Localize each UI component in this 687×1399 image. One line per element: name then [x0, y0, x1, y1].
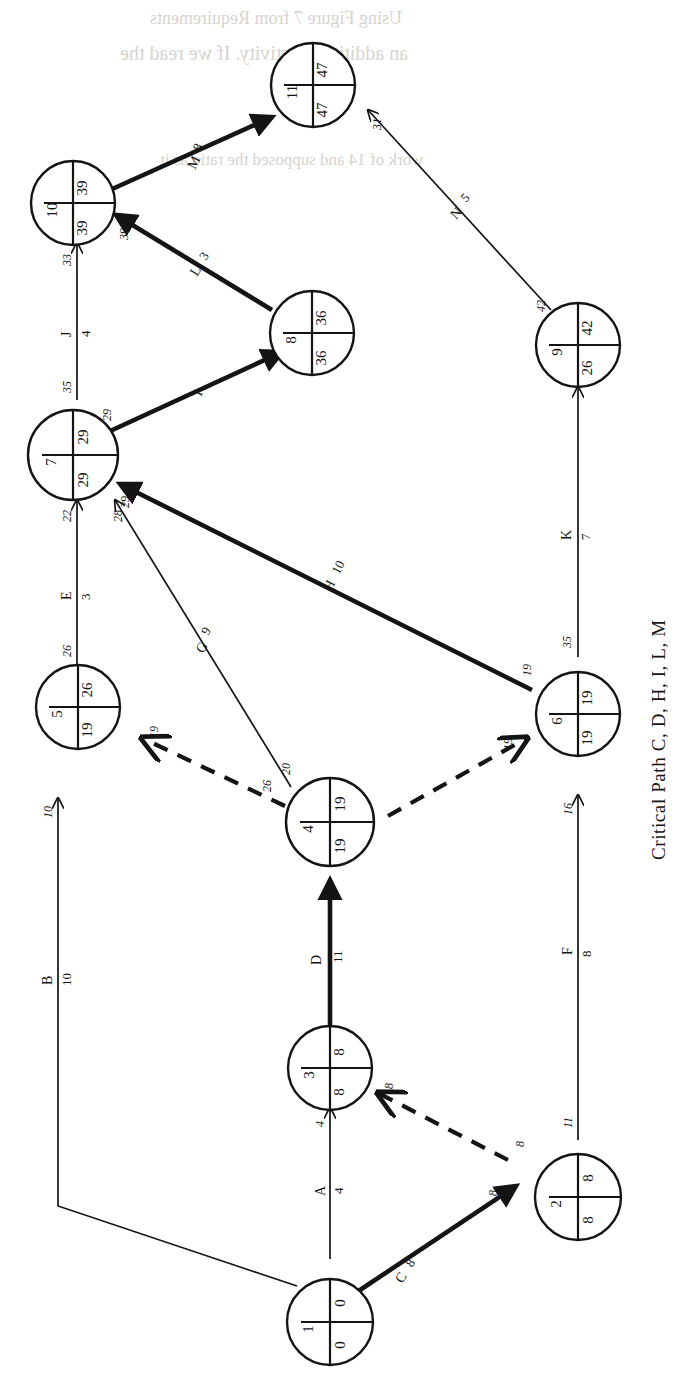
node-1-number: 1 — [300, 1325, 316, 1333]
node-10[interactable]: 10 39 39 — [31, 161, 115, 245]
time-tag-dummy23-head: 8 — [382, 1083, 396, 1089]
time-tag-h-head: 29 — [118, 496, 132, 508]
node-5[interactable]: 5 19 26 — [36, 665, 120, 749]
node-3-number: 3 — [301, 1071, 317, 1079]
node-2-late: 8 — [580, 1216, 596, 1224]
activity-label-F: F — [560, 947, 575, 955]
time-tag-n-tail: 42 — [534, 300, 548, 312]
time-tag-l-head: 39 — [117, 228, 131, 241]
node-11-number: 11 — [284, 85, 300, 99]
node-3[interactable]: 3 8 8 — [288, 1026, 372, 1110]
node-8-early: 36 — [313, 310, 329, 326]
activity-label-C: C — [392, 1270, 410, 1286]
node-4-late: 19 — [332, 839, 348, 854]
activity-duration-K: 7 — [578, 533, 593, 540]
node-10-number: 10 — [44, 203, 60, 218]
activity-label-D: D — [309, 955, 324, 965]
node-7[interactable]: 7 29 29 — [28, 410, 118, 500]
node-5-early: 19 — [79, 723, 95, 738]
time-tag-f-tail: 11 — [561, 1117, 575, 1128]
node-3-late: 8 — [331, 1088, 347, 1096]
time-tag-b-head: 10 — [41, 806, 55, 818]
activity-label-E: E — [59, 591, 74, 600]
node-4[interactable]: 4 19 19 — [286, 778, 374, 866]
node-9-early: 26 — [579, 360, 595, 376]
activity-label-K: K — [559, 530, 574, 540]
critical-path-caption: Critical Path C, D, H, I, L, M — [648, 619, 670, 860]
activity-edge-B: B 10 10 — [40, 798, 297, 1286]
dummy-edge-4-6: 19 19 — [363, 738, 527, 824]
activity-label-N: N — [447, 204, 465, 222]
node-2-number: 2 — [548, 1200, 564, 1208]
time-tag-f-head: 16 — [561, 803, 575, 815]
node-1-early: 0 — [332, 1299, 348, 1307]
node-2[interactable]: 2 8 8 — [535, 1154, 621, 1240]
activity-label-J: J — [59, 331, 74, 337]
activity-duration-L: 3 — [196, 249, 212, 262]
time-tag-dummy45-head: 19 — [147, 726, 161, 738]
activity-duration-B: 10 — [59, 973, 74, 986]
node-1-late: 0 — [332, 1341, 348, 1349]
activity-duration-F: 8 — [579, 951, 594, 958]
node-6-number: 6 — [549, 717, 565, 725]
node-10-early: 39 — [74, 181, 90, 196]
page-canvas: Using Figure 7 from Requirements an addi… — [0, 0, 687, 1399]
dummy-edge-4-5: 26 19 — [142, 726, 285, 806]
activity-duration-H: 10 — [328, 558, 347, 576]
node-5-late: 26 — [79, 682, 95, 698]
activity-edge-K: K 7 35 — [559, 387, 593, 657]
activity-edge-G: G 9 20 28 — [111, 500, 293, 787]
time-tag-h-tail: 19 — [520, 664, 534, 676]
time-tag-g-head: 28 — [111, 510, 125, 522]
node-11[interactable]: 11 47 47 — [271, 43, 355, 127]
node-4-early: 19 — [332, 797, 348, 812]
node-9[interactable]: 9 26 42 — [536, 303, 620, 387]
node-7-late: 29 — [75, 473, 91, 488]
activity-duration-G: 9 — [198, 624, 214, 637]
activity-duration-E: 3 — [78, 594, 93, 601]
activity-edge-C: C 8 8 — [357, 1186, 516, 1292]
node-9-number: 9 — [549, 348, 565, 356]
node-10-late: 39 — [74, 221, 90, 236]
activity-edge-H: H 10 19 29 — [118, 484, 534, 690]
node-6-early: 19 — [579, 691, 595, 706]
time-tag-m-head: 47 — [251, 119, 265, 132]
node-7-early: 29 — [75, 430, 91, 445]
activity-duration-N: 5 — [457, 190, 472, 205]
time-tag-e-head: 22 — [60, 510, 74, 522]
activity-label-A: A — [313, 1185, 328, 1196]
node-8-late: 36 — [313, 350, 329, 366]
node-6-late: 19 — [579, 731, 595, 746]
time-tag-dummy46-head: 19 — [501, 738, 515, 750]
time-tag-dummy23-tail: 8 — [513, 1141, 527, 1147]
activity-duration-A: 4 — [331, 1187, 346, 1194]
activity-edge-L: L 3 39 — [116, 215, 272, 310]
activity-duration-J: 4 — [78, 330, 93, 337]
time-tag-g-tail: 20 — [279, 763, 293, 775]
time-tag-e-tail: 26 — [60, 645, 74, 657]
activity-edge-N: N 5 42 31 — [368, 110, 551, 312]
node-9-late: 42 — [579, 321, 595, 336]
node-11-early: 47 — [314, 62, 330, 78]
node-8[interactable]: 8 36 36 — [270, 291, 354, 375]
node-5-number: 5 — [49, 710, 65, 718]
time-tag-k-tail: 35 — [560, 636, 574, 649]
activity-edge-D: D 11 — [309, 880, 345, 1027]
node-6[interactable]: 6 19 19 — [536, 672, 620, 756]
time-tag-dummy45-tail: 26 — [260, 780, 274, 792]
node-8-number: 8 — [283, 336, 299, 344]
dummy-edge-2-3: 8 8 — [378, 1083, 527, 1160]
activity-edge-F: F 8 11 16 — [560, 795, 594, 1140]
node-11-late: 47 — [314, 102, 330, 118]
time-tag-c-tail: 8 — [486, 1190, 500, 1196]
node-7-number: 7 — [43, 458, 59, 466]
node-2-early: 8 — [580, 1174, 596, 1182]
node-3-early: 8 — [331, 1048, 347, 1056]
node-1[interactable]: 1 0 0 — [287, 1279, 373, 1365]
activity-edge-M: M 8 47 — [110, 117, 272, 190]
network-svg: C 8 8 A 4 4 B 10 10 8 8 — [0, 0, 687, 1399]
activity-duration-D: 11 — [330, 950, 345, 963]
time-tag-j-tail: 35 — [60, 381, 74, 394]
time-tag-j-head: 33 — [60, 254, 74, 267]
activity-edge-E: E 3 26 22 — [59, 500, 93, 665]
